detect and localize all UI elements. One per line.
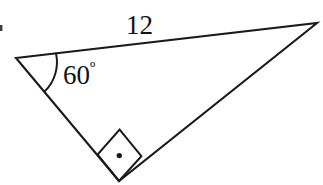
side-length-label-12: 12 [126, 12, 153, 39]
geometry-figure: 12 60º [0, 0, 323, 185]
right-angle-dot-icon [117, 153, 122, 158]
degree-symbol-icon: º [90, 59, 95, 78]
angle-label-value: 60 [63, 60, 90, 90]
angle-label-60-degrees: 60º [63, 60, 95, 89]
triangle-drawing-canvas [0, 0, 323, 185]
triangle-outline [16, 23, 317, 181]
angle-arc-60-icon [45, 53, 57, 91]
edge-scan-artifact [0, 25, 2, 31]
